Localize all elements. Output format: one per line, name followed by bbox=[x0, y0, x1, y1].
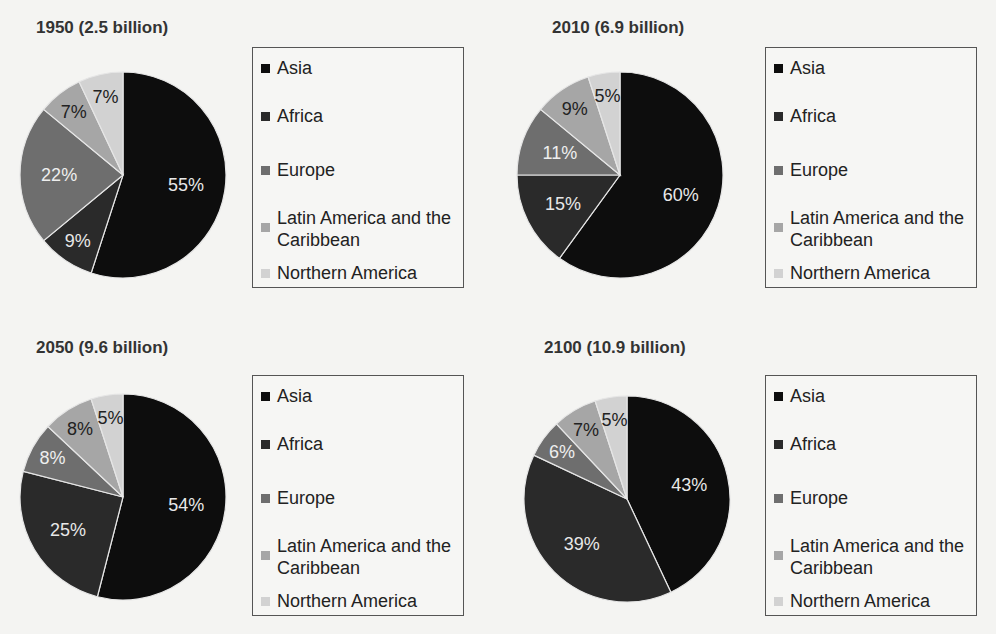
slice-label-africa: 15% bbox=[545, 194, 581, 214]
legend-label: Africa bbox=[277, 105, 323, 127]
legend-label: Latin America and the Caribbean bbox=[277, 535, 457, 579]
slice-label-asia: 54% bbox=[168, 495, 204, 515]
legend-label: Africa bbox=[790, 433, 836, 455]
slice-label-europe: 6% bbox=[549, 442, 575, 462]
panel-2050: 2050 (9.6 billion) 54%25%8%8%5% Asia Afr… bbox=[0, 328, 498, 634]
legend-item-africa: Africa bbox=[774, 433, 836, 455]
legend-swatch-africa bbox=[774, 440, 783, 449]
panel-title: 2050 (9.6 billion) bbox=[36, 338, 168, 358]
legend-item-europe: Europe bbox=[774, 159, 848, 181]
legend-swatch-europe bbox=[774, 166, 783, 175]
panel-title: 1950 (2.5 billion) bbox=[36, 18, 168, 38]
legend-swatch-northern-america bbox=[261, 597, 270, 606]
slice-label-latin-america: 7% bbox=[573, 420, 599, 440]
legend: Asia Africa Europe Latin America and the… bbox=[252, 375, 464, 616]
legend-label: Asia bbox=[790, 57, 825, 79]
slice-label-northern-america: 5% bbox=[601, 410, 627, 430]
legend: Asia Africa Europe Latin America and the… bbox=[252, 47, 464, 288]
legend-item-northern-america: Northern America bbox=[774, 590, 930, 612]
panel-2010: 2010 (6.9 billion) 60%15%11%9%5% Asia Af… bbox=[500, 0, 996, 317]
legend-item-asia: Asia bbox=[261, 57, 312, 79]
legend-item-europe: Europe bbox=[774, 487, 848, 509]
legend-label: Africa bbox=[790, 105, 836, 127]
legend-swatch-northern-america bbox=[261, 269, 270, 278]
legend-item-northern-america: Northern America bbox=[261, 590, 417, 612]
legend-item-asia: Asia bbox=[261, 385, 312, 407]
legend-swatch-latin-america bbox=[774, 551, 783, 560]
pie-chart-2010: 60%15%11%9%5% bbox=[515, 70, 735, 290]
legend-swatch-latin-america bbox=[261, 551, 270, 560]
slice-label-latin-america: 7% bbox=[61, 102, 87, 122]
slice-label-northern-america: 5% bbox=[594, 86, 620, 106]
legend-item-asia: Asia bbox=[774, 57, 825, 79]
legend-label: Northern America bbox=[277, 262, 417, 284]
legend-item-europe: Europe bbox=[261, 487, 335, 509]
legend-item-europe: Europe bbox=[261, 159, 335, 181]
pie-chart-2100: 43%39%6%7%5% bbox=[522, 394, 742, 614]
legend-swatch-northern-america bbox=[774, 597, 783, 606]
legend-swatch-asia bbox=[261, 392, 270, 401]
legend-label: Latin America and the Caribbean bbox=[277, 207, 457, 251]
legend-label: Europe bbox=[790, 159, 848, 181]
legend-swatch-asia bbox=[261, 64, 270, 73]
pie-chart-2050: 54%25%8%8%5% bbox=[18, 392, 238, 612]
legend-swatch-europe bbox=[774, 494, 783, 503]
legend-item-asia: Asia bbox=[774, 385, 825, 407]
legend-swatch-africa bbox=[261, 440, 270, 449]
legend-label: Latin America and the Caribbean bbox=[790, 535, 970, 579]
legend-item-africa: Africa bbox=[774, 105, 836, 127]
legend-swatch-africa bbox=[261, 112, 270, 121]
legend-label: Europe bbox=[277, 159, 335, 181]
slice-label-asia: 55% bbox=[168, 175, 204, 195]
legend-swatch-europe bbox=[261, 166, 270, 175]
legend-item-northern-america: Northern America bbox=[261, 262, 417, 284]
legend-label: Northern America bbox=[277, 590, 417, 612]
legend-label: Northern America bbox=[790, 262, 930, 284]
legend-swatch-asia bbox=[774, 64, 783, 73]
legend: Asia Africa Europe Latin America and the… bbox=[765, 47, 977, 288]
slice-label-latin-america: 8% bbox=[67, 419, 93, 439]
slice-label-northern-america: 5% bbox=[97, 408, 123, 428]
legend-item-northern-america: Northern America bbox=[774, 262, 930, 284]
legend-label: Europe bbox=[790, 487, 848, 509]
slice-label-asia: 43% bbox=[671, 475, 707, 495]
legend-label: Europe bbox=[277, 487, 335, 509]
pie-chart-1950: 55%9%22%7%7% bbox=[18, 70, 238, 290]
legend-item-africa: Africa bbox=[261, 105, 323, 127]
legend-swatch-latin-america bbox=[774, 223, 783, 232]
panel-title: 2010 (6.9 billion) bbox=[552, 18, 684, 38]
slice-label-asia: 60% bbox=[663, 185, 699, 205]
legend-label: Asia bbox=[277, 57, 312, 79]
slice-label-northern-america: 7% bbox=[92, 87, 118, 107]
legend-label: Asia bbox=[277, 385, 312, 407]
slice-label-europe: 22% bbox=[41, 165, 77, 185]
panel-2100: 2100 (10.9 billion) 43%39%6%7%5% Asia Af… bbox=[500, 328, 996, 634]
slice-label-latin-america: 9% bbox=[562, 99, 588, 119]
legend-swatch-asia bbox=[774, 392, 783, 401]
slice-label-europe: 11% bbox=[543, 143, 578, 163]
slice-label-africa: 39% bbox=[564, 534, 600, 554]
legend-label: Latin America and the Caribbean bbox=[790, 207, 970, 251]
legend-swatch-europe bbox=[261, 494, 270, 503]
legend-label: Northern America bbox=[790, 590, 930, 612]
legend: Asia Africa Europe Latin America and the… bbox=[765, 375, 977, 616]
legend-swatch-latin-america bbox=[261, 223, 270, 232]
panel-title: 2100 (10.9 billion) bbox=[544, 338, 686, 358]
legend-swatch-northern-america bbox=[774, 269, 783, 278]
slice-label-africa: 25% bbox=[50, 520, 86, 540]
legend-item-latin-america: Latin America and the Caribbean bbox=[774, 535, 970, 579]
legend-swatch-africa bbox=[774, 112, 783, 121]
legend-label: Africa bbox=[277, 433, 323, 455]
slice-label-europe: 8% bbox=[40, 448, 66, 468]
legend-item-latin-america: Latin America and the Caribbean bbox=[261, 535, 457, 579]
legend-item-latin-america: Latin America and the Caribbean bbox=[774, 207, 970, 251]
panel-1950: 1950 (2.5 billion) 55%9%22%7%7% Asia Afr… bbox=[0, 0, 498, 317]
legend-item-latin-america: Latin America and the Caribbean bbox=[261, 207, 457, 251]
legend-label: Asia bbox=[790, 385, 825, 407]
legend-item-africa: Africa bbox=[261, 433, 323, 455]
slice-label-africa: 9% bbox=[65, 231, 91, 251]
